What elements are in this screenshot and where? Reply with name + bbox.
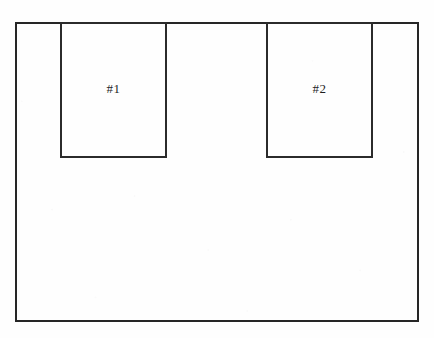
inner-box-1-label: #1 [107, 82, 121, 95]
inner-box-2-label: #2 [313, 82, 327, 95]
inner-box-1: #1 [60, 22, 167, 158]
inner-box-2: #2 [266, 22, 373, 158]
figure-canvas: #1 #2 [0, 0, 434, 338]
